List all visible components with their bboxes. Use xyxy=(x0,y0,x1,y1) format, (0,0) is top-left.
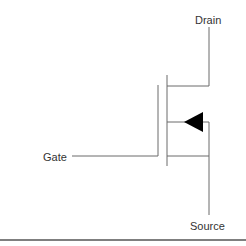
mosfet-diagram: Drain Gate Source xyxy=(0,0,246,246)
gate-label: Gate xyxy=(43,151,67,163)
drain-label: Drain xyxy=(195,14,221,26)
arrow-icon xyxy=(184,112,203,132)
source-label: Source xyxy=(190,220,225,232)
